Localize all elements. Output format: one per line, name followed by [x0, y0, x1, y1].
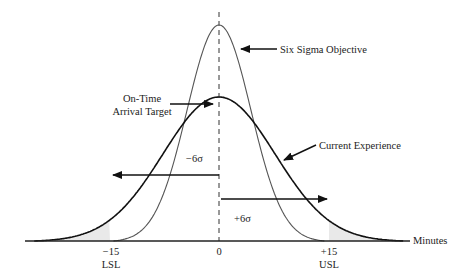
x-axis-label: Minutes: [413, 235, 447, 246]
lsl-shaded-tail: [34, 221, 110, 242]
tick-usl-label: USL: [319, 259, 339, 270]
current-experience-label: Current Experience: [319, 140, 401, 151]
plus-6-sigma-label: +6σ: [234, 213, 251, 224]
six-sigma-diagram: Six Sigma Objective On-Time Arrival Targ…: [0, 0, 473, 280]
minus-6-sigma-label: −6σ: [186, 153, 203, 164]
current-experience-arrow: [284, 145, 316, 160]
six-sigma-label: Six Sigma Objective: [280, 44, 367, 55]
diagram-canvas: Six Sigma Objective On-Time Arrival Targ…: [0, 0, 473, 280]
target-label-2: Arrival Target: [112, 106, 171, 117]
tick-lsl-value: −15: [103, 246, 119, 257]
target-label-1: On-Time: [123, 93, 161, 104]
tick-lsl-label: LSL: [102, 259, 121, 270]
tick-zero-value: 0: [216, 246, 221, 257]
tick-usl-value: +15: [321, 246, 337, 257]
